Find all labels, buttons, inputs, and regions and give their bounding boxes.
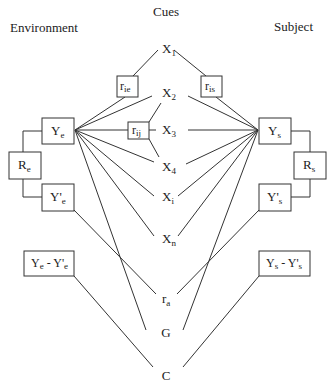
line-x1-ris [174, 50, 206, 76]
line-yps-ra [177, 210, 259, 294]
svg-text:X4: X4 [162, 159, 176, 176]
box-y-s: Ys [259, 118, 291, 144]
cue-x2: X2 [162, 85, 176, 102]
svg-text:ra: ra [162, 291, 170, 308]
svg-text:X1: X1 [162, 41, 176, 58]
line-ye-re [23, 131, 42, 152]
node-g: G [161, 325, 170, 340]
line-rij-x4 [149, 139, 159, 157]
line-sdiff-c [183, 276, 259, 367]
box-r-ie: rie [117, 76, 138, 97]
svg-text:Ys - Y's: Ys - Y's [266, 256, 303, 271]
box-y-e: Ye [42, 118, 74, 144]
environment-heading: Environment [10, 20, 78, 35]
svg-text:Xn: Xn [162, 231, 176, 248]
lens-model-diagram: Cues Environment Subject X1 X2 X3 X4 Xi … [0, 0, 331, 386]
svg-text:X2: X2 [162, 85, 176, 102]
cue-x4: X4 [162, 159, 176, 176]
box-y-prime-s: Y's [259, 184, 291, 211]
line-x2-ys [188, 96, 258, 130]
line-xn-ys [178, 130, 258, 236]
cue-x1: X1 [162, 41, 176, 58]
line-ediff-c [74, 276, 153, 367]
box-env-difference: Ye - Y'e [24, 251, 74, 276]
svg-text:X3: X3 [162, 122, 176, 139]
line-rs-yps [291, 179, 310, 197]
box-r-is: ris [201, 76, 222, 97]
line-x1-rie [133, 50, 158, 76]
cues-title: Cues [153, 4, 179, 19]
cue-xn: Xn [162, 231, 176, 248]
line-re-ype [23, 179, 42, 197]
box-subj-difference: Ys - Y's [259, 251, 310, 276]
box-r-e: Re [9, 152, 41, 179]
line-rij-x2 [149, 103, 161, 122]
line-rie-ye [75, 97, 125, 130]
box-y-prime-e: Y'e [42, 184, 74, 211]
svg-text:Xi: Xi [162, 189, 174, 206]
node-c: C [162, 368, 171, 383]
node-achievement-ra: ra [162, 291, 170, 308]
cue-x3: X3 [162, 122, 176, 139]
box-r-ij: rij [128, 122, 149, 139]
cue-xi: Xi [162, 189, 174, 206]
line-ris-ys [216, 97, 258, 130]
subject-heading: Subject [274, 19, 313, 34]
box-r-s: Rs [294, 152, 326, 179]
line-ys-rs [291, 131, 310, 152]
svg-text:Ye - Y'e: Ye - Y'e [31, 256, 68, 271]
